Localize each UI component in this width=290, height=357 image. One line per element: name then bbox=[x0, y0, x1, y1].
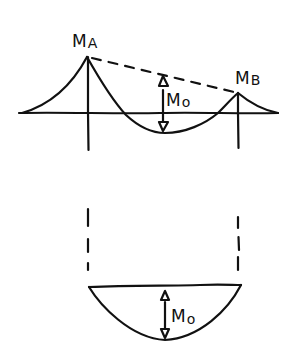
left-hogging-curve bbox=[22, 57, 87, 113]
support-line-b bbox=[238, 93, 239, 148]
label-mb: MB bbox=[235, 68, 261, 88]
moment-diagram-canvas: MA MB Mo Mo bbox=[0, 0, 290, 357]
m0-arrow-up-icon bbox=[159, 76, 168, 86]
projection-dash-right bbox=[239, 237, 240, 250]
top-moment-diagram: MA MB Mo bbox=[19, 31, 278, 150]
label-m0-bottom: Mo bbox=[171, 306, 196, 327]
beam-baseline bbox=[19, 113, 278, 114]
m0-arrow-down-icon bbox=[159, 122, 168, 131]
label-ma: MA bbox=[72, 31, 98, 51]
projection-lines bbox=[88, 209, 239, 270]
label-m0-top: Mo bbox=[166, 90, 191, 110]
support-line-a bbox=[88, 57, 89, 150]
m0-bottom-arrow-down-icon bbox=[161, 329, 169, 338]
m0-bottom-arrow-up-icon bbox=[161, 291, 169, 300]
bottom-moment-diagram: Mo bbox=[89, 285, 241, 340]
right-hogging-curve bbox=[238, 93, 278, 113]
simple-span-baseline bbox=[89, 285, 241, 287]
